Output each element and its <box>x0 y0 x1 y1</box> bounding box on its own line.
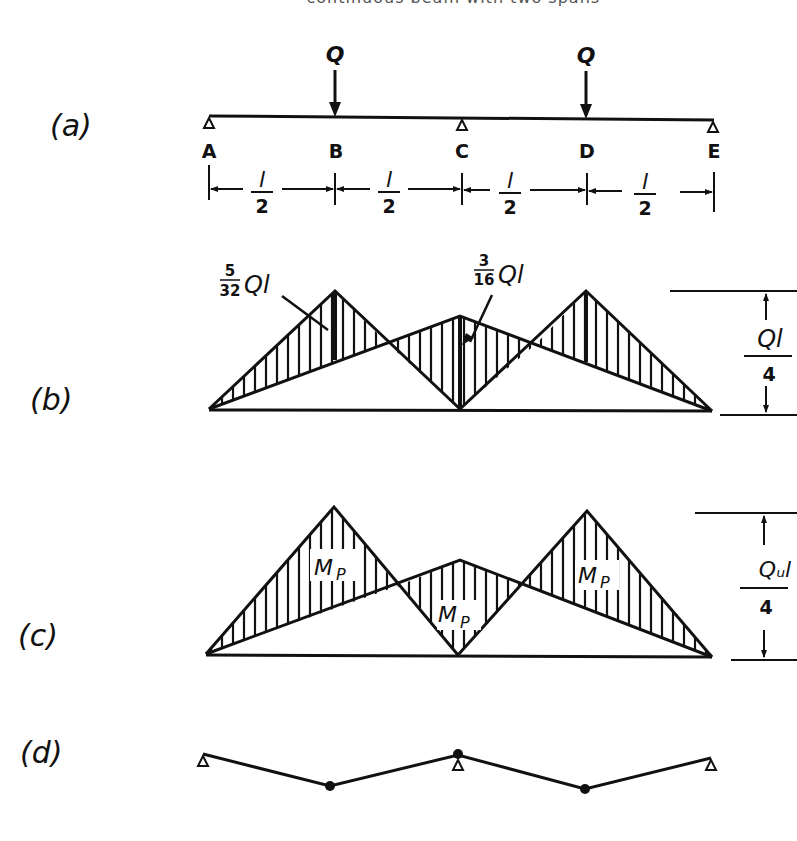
point-label-c: C <box>455 140 469 162</box>
span-labels: l 2 l 2 l 2 l 2 <box>251 167 656 219</box>
hinge-b-icon <box>325 781 335 791</box>
support-c-icon <box>457 120 467 130</box>
beam-diagram: Q Q A B C D E l 2 l 2 <box>0 0 797 841</box>
svg-text:16: 16 <box>474 271 495 289</box>
svg-text:2: 2 <box>638 197 651 219</box>
svg-text:32: 32 <box>220 282 241 300</box>
svg-text:M: M <box>438 602 457 627</box>
svg-text:2: 2 <box>503 196 516 218</box>
support-c-icon <box>453 760 463 770</box>
svg-text:l: l <box>642 169 648 194</box>
ultimate-moment-dimension: Qᵤl 4 <box>695 513 797 660</box>
point-label-d: D <box>579 140 595 162</box>
svg-text:l: l <box>507 168 513 193</box>
svg-text:4: 4 <box>762 363 775 385</box>
svg-text:l: l <box>259 167 265 192</box>
svg-text:Ql: Ql <box>244 271 270 299</box>
moment-label-midspan: 5 32 Ql <box>220 262 270 300</box>
panel-a-beam: Q Q A B C D E l 2 l 2 <box>202 42 721 219</box>
moment-label-support: 3 16 Ql <box>474 252 524 289</box>
svg-text:2: 2 <box>255 195 268 217</box>
svg-text:5: 5 <box>225 262 235 280</box>
panel-c-plastic-moment: M P M P M P Qᵤl 4 <box>206 507 797 660</box>
svg-text:P: P <box>336 565 346 584</box>
svg-text:P: P <box>600 573 610 592</box>
svg-text:M: M <box>578 563 597 588</box>
point-label-a: A <box>202 140 217 162</box>
support-e-icon <box>706 760 716 770</box>
support-e-icon <box>708 122 718 132</box>
panel-b-elastic-moment: 5 32 Ql 3 16 Ql Ql 4 <box>209 252 797 415</box>
svg-text:2: 2 <box>382 195 395 217</box>
hinge-d-icon <box>580 784 590 794</box>
hinge-c-icon <box>453 749 463 759</box>
svg-text:Ql: Ql <box>757 325 783 353</box>
svg-text:P: P <box>460 613 470 632</box>
point-label-e: E <box>708 140 721 162</box>
panel-d-collapse-mechanism <box>198 749 716 794</box>
load-label-d: Q <box>577 43 596 68</box>
svg-text:M: M <box>314 555 333 580</box>
svg-text:Qᵤl: Qᵤl <box>759 557 791 582</box>
support-a-icon <box>198 756 208 766</box>
support-a-icon <box>204 118 214 128</box>
svg-text:l: l <box>386 167 392 192</box>
svg-text:Ql: Ql <box>498 261 524 289</box>
load-label-b: Q <box>326 42 345 67</box>
point-label-b: B <box>329 140 343 162</box>
svg-text:3: 3 <box>479 252 489 270</box>
svg-text:4: 4 <box>759 596 772 618</box>
